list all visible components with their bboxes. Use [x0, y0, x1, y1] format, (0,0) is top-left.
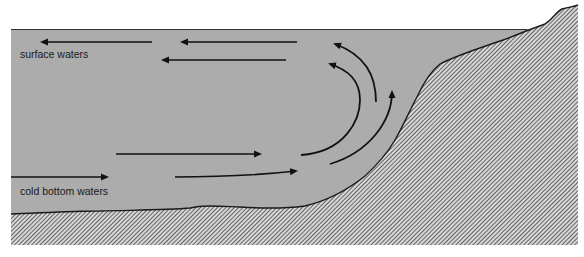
- surface-waters-label: surface waters: [20, 49, 88, 60]
- cold-bottom-waters-label: cold bottom waters: [20, 186, 108, 197]
- upwelling-diagram: [0, 0, 584, 257]
